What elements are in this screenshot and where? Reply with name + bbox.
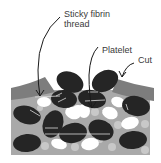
platelet-label: Platelet <box>102 45 132 55</box>
fibrin-label-line2: thread <box>64 19 110 29</box>
cut-label: Cut <box>138 55 152 65</box>
fibrin-label-line1: Sticky fibrin <box>64 9 110 19</box>
fibrin-label: Sticky fibrin thread <box>64 9 110 29</box>
